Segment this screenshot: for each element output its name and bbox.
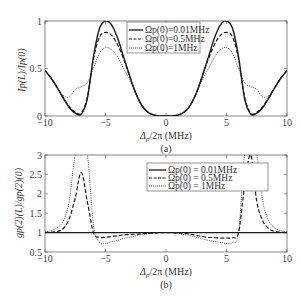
ylabel-a: Ip(L)/Ip(0) [16, 48, 28, 93]
y-tick-label: 3 [37, 150, 42, 161]
xlabel-b: Δp/2π (MHz) [139, 266, 192, 279]
y-tick-label: 2.5 [30, 169, 43, 180]
panel-b: −10−505100.511.522.53 gp(2)(L)/gp(2)(0) … [13, 149, 292, 291]
x-tick-label: 10 [282, 117, 292, 128]
y-tick-label: 2 [37, 188, 42, 199]
caption-b: (b) [160, 279, 172, 291]
ylabel-b: gp(2)(L)/gp(2)(0) [13, 167, 25, 238]
y-tick-label: 0.5 [30, 63, 43, 74]
x-tick-label: 10 [282, 253, 292, 264]
x-tick-label: 5 [224, 117, 229, 128]
x-tick-label: 0 [164, 117, 169, 128]
y-tick-label: 0 [37, 111, 42, 122]
xlabel-a: Δp/2π (MHz) [139, 130, 192, 143]
legend-label-a-3: Ωp(0)=1MHz [145, 43, 198, 54]
y-tick-label: 1 [37, 227, 42, 238]
figure: −10−5051000.51 Ip(L)/Ip(0) Δp/2π (MHz) (… [0, 0, 302, 299]
series-line-dotted [45, 47, 287, 116]
x-tick-label: −5 [100, 253, 111, 264]
legend-a: Ωp(0)=0.01MHz Ωp(0)=0.5MHz Ωp(0)=1MHz [127, 22, 209, 54]
legend-b: Ωp(0) = 0.01MHz Ωp(0) = 0.5MHz Ωp(0) = 1… [147, 163, 268, 192]
x-tick-label: −5 [100, 117, 111, 128]
x-tick-label: 5 [224, 253, 229, 264]
panel-a: −10−5051000.51 Ip(L)/Ip(0) Δp/2π (MHz) (… [16, 16, 292, 156]
y-tick-label: 0.5 [30, 247, 43, 258]
y-tick-label: 1 [37, 16, 42, 27]
y-tick-label: 1.5 [30, 208, 43, 219]
legend-label-b-3: Ωp(0) = 1MHz [168, 181, 225, 192]
caption-a: (a) [160, 143, 171, 155]
x-tick-label: 0 [164, 253, 169, 264]
